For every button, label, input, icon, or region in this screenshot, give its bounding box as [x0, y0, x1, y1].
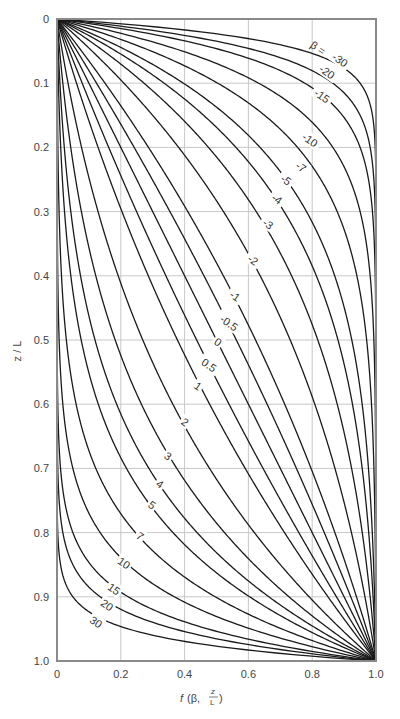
y-tick-label: 0.8	[34, 527, 49, 539]
x-tick-labels: 00.20.40.60.81.0	[54, 668, 384, 680]
x-tick-label: 0.2	[113, 668, 128, 680]
x-axis-label-close: )	[219, 692, 223, 704]
y-tick-label: 0.7	[34, 462, 49, 474]
y-tick-label: 0.4	[34, 270, 49, 282]
y-tick-labels: 00.10.20.30.40.50.60.70.80.91.0	[34, 13, 49, 667]
x-tick-label: 0.6	[241, 668, 256, 680]
y-tick-label: 0.6	[34, 398, 49, 410]
x-axis-label-args: (β,	[187, 692, 200, 704]
curve-label: 30	[88, 614, 105, 631]
y-tick-label: 0.5	[34, 334, 49, 346]
beta-prefix-label: β =	[308, 39, 328, 58]
x-tick-label: 0.4	[177, 668, 192, 680]
y-tick-label: 0.2	[34, 141, 49, 153]
x-tick-label: 0.8	[305, 668, 320, 680]
curve-labels: -30-20-15-10-7-5-4-3-2-1-0.500.512345710…	[86, 39, 353, 632]
y-tick-label: 0	[43, 13, 49, 25]
x-axis-label-f: f	[180, 692, 184, 704]
y-tick-label: 1.0	[34, 655, 49, 667]
x-axis-label: f (β, z L )	[180, 687, 223, 707]
x-tick-label: 0	[54, 668, 60, 680]
chart-figure: -30-20-15-10-7-5-4-3-2-1-0.500.512345710…	[0, 0, 400, 719]
x-axis-label-frac-num: z	[210, 687, 215, 696]
curve-label: 20	[99, 597, 116, 614]
y-tick-label: 0.1	[34, 77, 49, 89]
y-tick-label: 0.3	[34, 206, 49, 218]
curve-label: 10	[116, 555, 133, 572]
y-axis-label: z / L	[11, 341, 23, 362]
x-axis-label-frac-den: L	[210, 698, 215, 707]
x-tick-label: 1.0	[368, 668, 383, 680]
y-tick-label: 0.9	[34, 591, 49, 603]
